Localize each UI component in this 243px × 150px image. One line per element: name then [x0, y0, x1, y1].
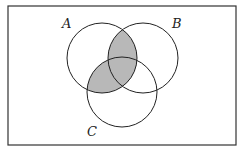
label-b: B — [171, 16, 182, 31]
label-c: C — [87, 124, 97, 139]
label-a: A — [61, 16, 71, 31]
venn-diagram: A B C — [0, 0, 243, 150]
